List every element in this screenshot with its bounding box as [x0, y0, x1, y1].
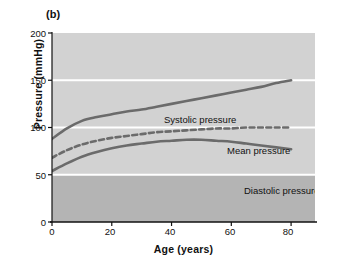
y-tick-label-200: 200 [20, 28, 46, 39]
x-tick-label-60: 60 [215, 226, 245, 237]
series-label-systolic: Systolic pressure [164, 114, 236, 125]
series-label-mean: Mean pressure [227, 145, 290, 156]
y-tick-label-150: 150 [20, 75, 46, 86]
plot-background-lower [52, 175, 315, 222]
y-tick-label-50: 50 [20, 170, 46, 181]
panel-letter: (b) [46, 8, 60, 20]
x-tick-label-20: 20 [95, 226, 125, 237]
plot-area: Systolic pressure Mean pressure Diastoli… [52, 33, 315, 222]
series-label-diastolic: Diastolic pressure [244, 185, 315, 196]
x-tick-label-40: 40 [155, 226, 185, 237]
y-tick-label-100: 100 [20, 122, 46, 133]
x-tick-label-80: 80 [273, 226, 303, 237]
x-axis-label: Age (years) [52, 243, 315, 255]
figure-panel-b: (b) Pressure (mmHg) 200 150 100 50 0 0 2… [0, 0, 337, 262]
x-tick-label-0: 0 [37, 226, 67, 237]
